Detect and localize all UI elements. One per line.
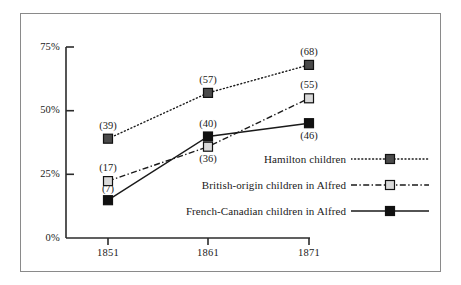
point-label-hamilton-1861: (57) [183, 74, 233, 85]
marker-hamilton-1871 [305, 60, 314, 69]
marker-french-1851 [104, 196, 113, 205]
marker-french-1861 [204, 132, 213, 141]
legend-swatch-british [351, 178, 429, 192]
marker-hamilton-1861 [204, 88, 213, 97]
y-axis-label-50: 50% [24, 104, 60, 115]
x-axis-label-1871: 1871 [284, 247, 334, 258]
legend-swatch-hamilton [351, 152, 429, 166]
x-axis-label-1851: 1851 [83, 247, 133, 258]
y-axis-label-0: 0% [24, 232, 60, 243]
legend-label-british: British-origin children in Alfred [202, 179, 346, 191]
y-axis-label-25: 25% [24, 168, 60, 179]
point-label-french-1861: (40) [183, 118, 233, 129]
point-label-french-1851: (7) [83, 183, 133, 194]
legend-label-french: French-Canadian children in Alfred [186, 205, 346, 217]
y-axis-label-75: 75% [24, 41, 60, 52]
legend-swatch-french [351, 204, 429, 218]
chart-screenshot: 75% 50% 25% 0% 1851 1861 1871 (39) (57) … [0, 0, 461, 285]
point-label-british-1851: (17) [83, 162, 133, 173]
point-label-hamilton-1871: (68) [284, 46, 334, 57]
chart-svg [0, 0, 461, 285]
x-axis-label-1861: 1861 [183, 247, 233, 258]
point-label-french-1871: (46) [284, 130, 334, 141]
marker-british-1861 [204, 142, 213, 151]
marker-british-1871 [305, 94, 314, 103]
legend-label-hamilton: Hamilton children [264, 153, 346, 165]
point-label-british-1871: (55) [284, 79, 334, 90]
point-label-hamilton-1851: (39) [83, 120, 133, 131]
marker-french-1871 [305, 119, 314, 128]
legend-item-french[interactable]: French-Canadian children in Alfred [180, 204, 429, 218]
legend-item-hamilton[interactable]: Hamilton children [180, 152, 429, 166]
marker-hamilton-1851 [104, 134, 113, 143]
legend-item-british[interactable]: British-origin children in Alfred [180, 178, 429, 192]
chart-plot-area: 75% 50% 25% 0% 1851 1861 1871 (39) (57) … [0, 0, 461, 285]
